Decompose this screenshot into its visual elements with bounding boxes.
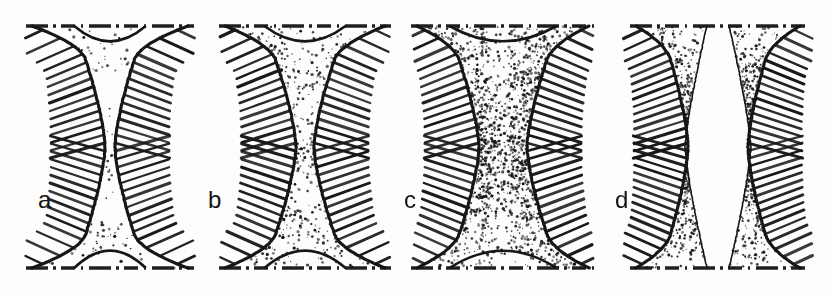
panel-a-drawing <box>20 0 200 295</box>
panel-b-drawing <box>215 0 395 295</box>
figure-canvas: Successive stages of neck formation betw… <box>0 0 833 295</box>
panel-a-label: a <box>38 188 51 212</box>
panel-d-drawing <box>618 0 818 295</box>
panel-d-label: d <box>615 188 628 212</box>
panel-d <box>618 0 818 295</box>
panel-c-drawing <box>408 0 598 295</box>
panel-c <box>408 0 598 295</box>
panel-b-label: b <box>208 188 221 212</box>
panel-b <box>215 0 395 295</box>
panel-a <box>20 0 200 295</box>
panel-c-label: c <box>404 188 416 212</box>
